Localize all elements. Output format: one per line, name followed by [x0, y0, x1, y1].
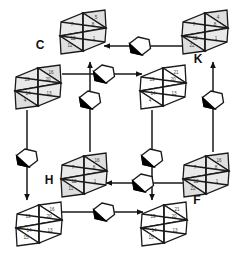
node-h[interactable]: 167812111 [61, 153, 107, 197]
node-left-mid[interactable]: 16192014134 [15, 65, 61, 109]
facet-number: 15 [148, 235, 154, 240]
facet-number: 22 [190, 186, 196, 191]
transition-marker [17, 149, 38, 167]
facet-number: 16 [216, 158, 222, 163]
arrow-bl-to-br [62, 203, 143, 221]
facet-number: 16 [49, 207, 55, 212]
facet-number: 16 [48, 70, 54, 75]
transition-marker [142, 149, 163, 167]
facet-number: 21 [174, 207, 180, 212]
facet-number: 11 [68, 43, 73, 48]
transition-marker [80, 91, 101, 109]
transition-marker [130, 37, 151, 55]
facet-number: 4 [24, 98, 27, 103]
arrow-k-up [203, 62, 224, 152]
facet-number: 22 [189, 43, 195, 48]
transition-marker [94, 65, 115, 83]
arrow-f-to-h [106, 174, 188, 192]
diagram-canvas: 5781211147812122161920141342119201413416… [0, 0, 244, 254]
facet-number: 4 [217, 15, 220, 20]
facet-number: 16 [94, 158, 100, 163]
label-f: F [193, 193, 200, 207]
node-k[interactable]: 47812122 [182, 10, 228, 54]
arrow-left-down [17, 110, 38, 200]
facet-number: 15 [23, 235, 29, 240]
node-right-mid[interactable]: 21192014134 [140, 65, 186, 109]
node-bottom-left[interactable]: 161920141315 [16, 202, 62, 246]
node-f[interactable]: 167812122 [183, 153, 229, 197]
facet-number: 4 [149, 98, 152, 103]
node-bottom-right[interactable]: 211920141315 [141, 202, 187, 246]
facet-number: 5 [95, 15, 98, 20]
transition-marker [133, 174, 154, 192]
arrow-left-to-right [62, 65, 142, 83]
label-h: H [45, 173, 54, 187]
transition-diagram: 5781211147812122161920141342119201413416… [0, 0, 244, 254]
node-c[interactable]: 57812111 [60, 10, 106, 54]
label-c: C [36, 38, 45, 52]
label-k: K [194, 52, 203, 66]
transition-marker [94, 203, 115, 221]
arrow-k-to-c [104, 37, 186, 55]
transition-marker [203, 91, 224, 109]
facet-number: 11 [69, 186, 74, 191]
facet-number: 21 [173, 70, 179, 75]
